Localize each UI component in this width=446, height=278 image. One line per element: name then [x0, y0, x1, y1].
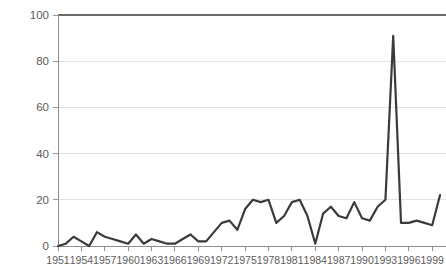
y-axis-label: 20: [36, 194, 49, 206]
x-axis-label: 1966: [163, 254, 187, 266]
x-axis-label: 1960: [116, 254, 140, 266]
x-axis-label: 1951: [46, 254, 70, 266]
x-axis-label: 1996: [397, 254, 421, 266]
x-axis-label: 1987: [327, 254, 351, 266]
x-axis-label: 1969: [187, 254, 211, 266]
y-axis-label: 80: [36, 55, 49, 67]
y-axis-label: 60: [36, 101, 49, 113]
x-axis-label: 1957: [93, 254, 117, 266]
x-axis-label: 1954: [70, 254, 94, 266]
x-axis-group: 1951195419571960196319661969197219751978…: [46, 246, 446, 266]
y-axis-label: 40: [36, 148, 49, 160]
y-axis-label: 0: [43, 240, 49, 252]
x-axis-label: 1990: [350, 254, 374, 266]
x-axis-label: 1972: [210, 254, 234, 266]
y-axis-label: 100: [30, 9, 49, 21]
y-axis-group: 020406080100: [30, 9, 58, 252]
x-axis-label: 1981: [280, 254, 304, 266]
x-axis-label: 1993: [374, 254, 398, 266]
x-axis-label: 1999: [421, 254, 445, 266]
chart-container: 020406080100 195119541957196019631966196…: [0, 0, 446, 278]
series-group: [58, 36, 440, 246]
x-axis-label: 1978: [257, 254, 281, 266]
x-axis-label: 1984: [304, 254, 328, 266]
x-axis-label: 1975: [233, 254, 257, 266]
x-axis-label: 1963: [140, 254, 164, 266]
line-chart: 020406080100 195119541957196019631966196…: [0, 0, 446, 278]
data-series-line: [58, 36, 440, 246]
